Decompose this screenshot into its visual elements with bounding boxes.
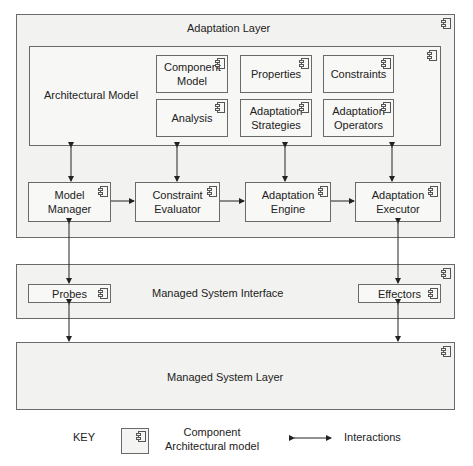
component-icon — [136, 431, 146, 442]
key-component-label-line2: Architectural model — [162, 439, 262, 453]
key-title: KEY — [73, 431, 95, 443]
key-interactions-label: Interactions — [344, 431, 401, 443]
interaction-arrows — [0, 0, 473, 466]
key-component-label: Component Architectural model — [162, 425, 262, 453]
key-component-label-line1: Component — [162, 425, 262, 439]
key-component-swatch — [121, 428, 149, 454]
